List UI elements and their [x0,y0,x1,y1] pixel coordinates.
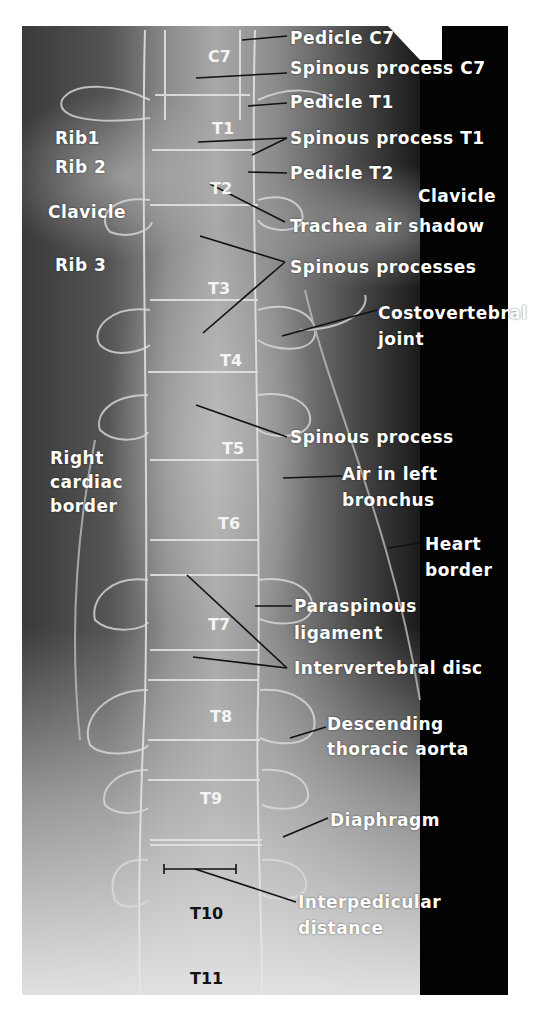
label-descending-aorta-line2: thoracic aorta [327,739,469,759]
vertebra-t1: T1 [212,120,234,138]
vertebra-t4: T4 [220,352,242,370]
vertebra-t8: T8 [210,708,232,726]
label-paraspinous-ligament-line1: Paraspinous [294,596,417,616]
vertebra-t6: T6 [218,515,240,533]
label-rib1: Rib1 [55,128,100,148]
label-heart-border-line2: border [425,560,492,580]
label-pedicle-c7: Pedicle C7 [290,28,395,48]
label-right-cardiac-border-line2: cardiac [50,472,123,492]
label-air-left-bronchus-line1: Air in left [342,464,438,484]
label-air-left-bronchus-line2: bronchus [342,490,435,510]
label-heart-border-line1: Heart [425,534,481,554]
label-spinous-processes: Spinous processes [290,257,476,277]
label-costovertebral-joint-line1: Costovertebral [378,303,528,323]
label-interpedicular-distance-line2: distance [298,918,383,938]
label-costovertebral-joint-line2: joint [378,329,424,349]
vertebra-t2: T2 [210,180,232,198]
label-paraspinous-ligament-line2: ligament [294,623,383,643]
label-spinous-process-t1: Spinous process T1 [290,128,485,148]
label-spinous-process-c7: Spinous process C7 [290,58,485,78]
label-pedicle-t1: Pedicle T1 [290,92,394,112]
vertebra-t10: T10 [190,905,223,923]
label-interpedicular-distance-line1: Interpedicular [298,892,441,912]
label-diaphragm: Diaphragm [330,810,440,830]
vertebra-t9: T9 [200,790,222,808]
vertebra-t3: T3 [208,280,230,298]
label-rib2: Rib 2 [55,157,106,177]
vertebra-c7: C7 [208,48,231,66]
label-trachea-air-shadow: Trachea air shadow [290,216,485,236]
vertebra-t11: T11 [190,970,223,988]
vertebra-t5: T5 [222,440,244,458]
label-clavicle-right: Clavicle [48,202,126,222]
label-spinous-process: Spinous process [290,427,454,447]
label-pedicle-t2: Pedicle T2 [290,163,394,183]
label-descending-aorta-line1: Descending [327,714,444,734]
label-clavicle-left: Clavicle [418,186,496,206]
label-intervertebral-disc: Intervertebral disc [294,658,483,678]
label-rib3: Rib 3 [55,255,106,275]
vertebral-column-outline [139,30,262,995]
label-right-cardiac-border-line1: Right [50,448,104,468]
vertebra-t7: T7 [208,616,230,634]
label-right-cardiac-border-line3: border [50,496,117,516]
